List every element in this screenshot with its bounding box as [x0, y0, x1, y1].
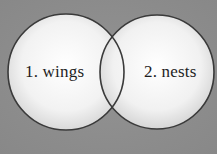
label-wings: 1. wings: [25, 63, 84, 80]
label-nests: 2. nests: [144, 63, 197, 80]
